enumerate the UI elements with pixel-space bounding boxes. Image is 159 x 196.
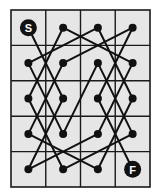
start-label: S [25,22,32,34]
path-node-dot [129,95,137,103]
path-node-dot [94,59,102,67]
path-node-dot [129,24,137,32]
path-node-dot [24,130,32,138]
knight-tour-diagram: S F [0,0,159,196]
path-node-dot [59,130,67,138]
puzzle-board: S F [0,0,159,196]
path-node-dot [24,165,32,173]
path-node-dot [94,95,102,103]
path-node-dot [59,165,67,173]
finish-label: F [129,164,136,176]
path-node-dot [24,59,32,67]
finish-node: F [124,161,141,178]
path-node-dot [59,95,67,103]
path-node-dot [129,59,137,67]
path-node-dot [59,59,67,67]
path-node-dot [94,165,102,173]
path-node-dot [94,130,102,138]
path-node-dot [59,24,67,32]
start-node: S [20,19,37,36]
path-node-dot [94,24,102,32]
path-node-dot [129,130,137,138]
path-node-dot [24,95,32,103]
